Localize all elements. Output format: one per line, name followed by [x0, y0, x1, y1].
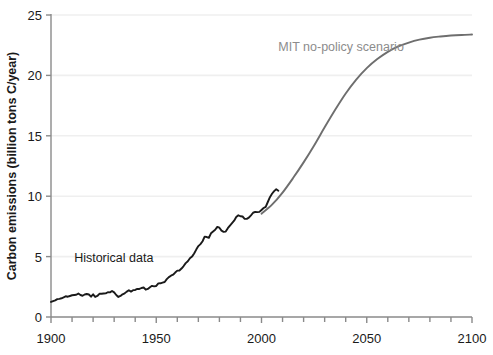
x-tick-label: 1950	[142, 331, 171, 346]
series-line-mit-scenario	[262, 35, 473, 214]
x-tick-label: 2100	[458, 331, 487, 346]
mit-scenario-label: MIT no-policy scenario	[278, 40, 404, 54]
y-tick-label: 25	[28, 8, 42, 23]
x-tick-label: 2050	[352, 331, 381, 346]
y-tick-label: 10	[28, 189, 42, 204]
x-tick-label: 2000	[247, 331, 276, 346]
historical-data-label: Historical data	[74, 251, 153, 265]
x-tick-label: 1900	[37, 331, 66, 346]
y-tick-label: 5	[35, 250, 42, 265]
carbon-emissions-chart: 051015202519001950200020502100Carbon emi…	[0, 0, 493, 355]
y-tick-label: 15	[28, 129, 42, 144]
series-line-historical	[51, 189, 278, 302]
y-tick-label: 20	[28, 68, 42, 83]
chart-canvas: 051015202519001950200020502100Carbon emi…	[0, 0, 493, 355]
y-axis-title: Carbon emissions (billion tons C/year)	[5, 52, 19, 281]
y-tick-label: 0	[35, 310, 42, 325]
